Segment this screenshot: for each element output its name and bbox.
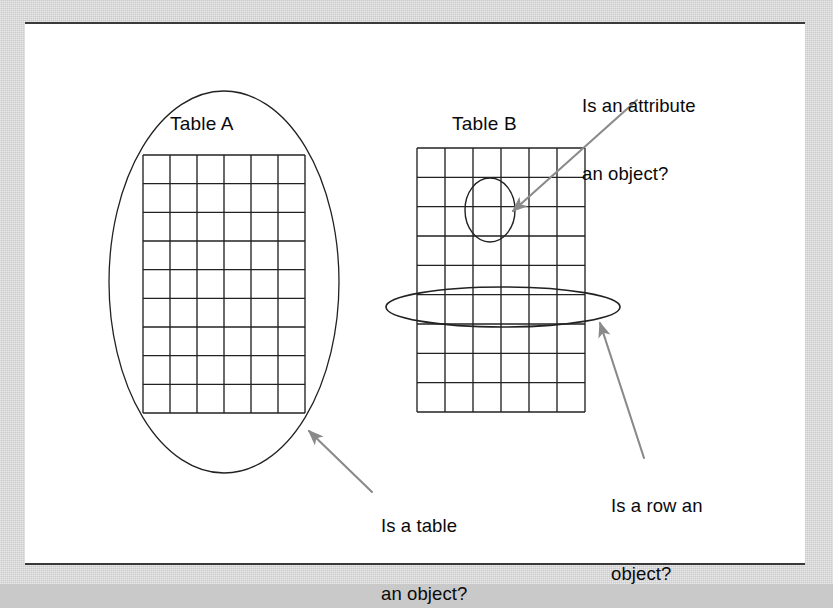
table-a-grid bbox=[143, 155, 305, 413]
attribute-question-label: Is an attribute an object? bbox=[582, 50, 696, 208]
table-question-label: Is a table an object? bbox=[381, 470, 467, 608]
table-a-title: Table A bbox=[170, 112, 234, 135]
row-question-label: Is a row an object? bbox=[611, 450, 703, 608]
attribute-question-line1: Is an attribute bbox=[582, 95, 696, 118]
row-question-line2: object? bbox=[611, 563, 703, 586]
table-b-grid bbox=[417, 148, 585, 412]
row-question-arrow bbox=[600, 323, 644, 458]
row-question-line1: Is a row an bbox=[611, 495, 703, 518]
table-a-group bbox=[109, 91, 339, 473]
table-question-line2: an object? bbox=[381, 583, 467, 606]
attribute-question-line2: an object? bbox=[582, 163, 696, 186]
table-question-arrow bbox=[309, 431, 372, 492]
table-question-line1: Is a table bbox=[381, 515, 467, 538]
table-b-title: Table B bbox=[452, 112, 517, 135]
